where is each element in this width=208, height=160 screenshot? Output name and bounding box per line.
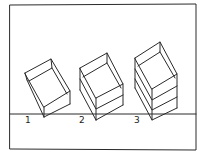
box-2 xyxy=(80,53,123,120)
box-3-label: 3 xyxy=(134,116,140,125)
box-1 xyxy=(25,59,70,117)
sketch-canvas: 1 2 3 xyxy=(0,0,208,160)
sketch-drawing xyxy=(0,0,208,160)
box-3 xyxy=(135,42,177,120)
frame xyxy=(10,4,196,150)
box-2-label: 2 xyxy=(79,116,85,125)
box-1-label: 1 xyxy=(25,116,31,125)
